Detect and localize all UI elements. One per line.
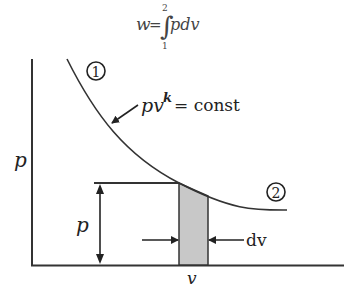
state-1-label: 1 <box>92 64 101 80</box>
dv-label: dv <box>246 230 267 250</box>
formula-integrand: pdv <box>170 15 200 34</box>
state-1-marker: 1 <box>87 62 105 80</box>
state-2-marker: 2 <box>267 183 285 201</box>
dv-text: dv <box>246 230 267 250</box>
curve-label-base: pv <box>141 94 164 116</box>
pv-diagram: w = ∫ 2 1 pdv p v p dv pv k = const 1 2 <box>0 0 357 291</box>
y-axis-label: p <box>14 148 27 172</box>
x-axis-label: v <box>187 268 197 288</box>
integral-upper-limit: 2 <box>162 3 168 13</box>
arrow-up-icon <box>96 184 104 194</box>
curve-label-exponent: k <box>163 90 172 105</box>
curve-label-rhs: = const <box>174 95 240 115</box>
pressure-label: p <box>76 213 89 237</box>
integral-lower-limit: 1 <box>162 41 168 51</box>
curve-label-arrow-icon <box>112 105 138 123</box>
arrow-down-icon <box>96 254 104 264</box>
work-formula: w = ∫ 2 1 pdv <box>136 3 200 51</box>
state-2-label: 2 <box>272 185 281 201</box>
